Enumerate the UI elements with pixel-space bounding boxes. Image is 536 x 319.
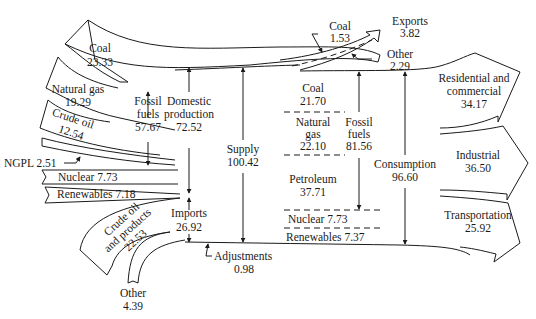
natural-gas-source-value: 19.29 [65, 96, 91, 108]
ngpl-label: NGPL 2.51 [4, 157, 57, 169]
consumption-label: Consumption [374, 158, 436, 171]
adjustments-label: Adjustments [214, 250, 273, 263]
industrial-value: 36.50 [465, 162, 491, 174]
domestic-production-label-2: production [164, 108, 214, 121]
adjustments-pointer [206, 244, 212, 256]
other-import-label: Other [120, 287, 146, 299]
imports-value: 26.92 [176, 221, 202, 233]
fossil-fuels-consumption-label-2: fuels [348, 128, 371, 140]
exports-other-label: Other [387, 48, 413, 60]
exports-coal-value: 1.53 [330, 32, 350, 44]
coal-source-label: Coal [89, 42, 111, 54]
consumption-renewables-label: Renewables 7.37 [286, 231, 365, 243]
consumption-natural-gas-label: Natural [296, 116, 330, 128]
coal-source-value: 23.33 [87, 56, 113, 68]
consumption-nuclear-label: Nuclear 7.73 [288, 213, 348, 225]
ngpl-source-edge [42, 138, 175, 160]
fossil-fuels-consumption-value: 81.56 [346, 140, 372, 152]
nuclear-source-label: Nuclear 7.73 [58, 171, 118, 183]
fossil-fuels-production-value: 57.67 [135, 121, 161, 133]
natural-gas-source-label: Natural gas [52, 83, 105, 96]
renewables-source-label: Renewables 7.18 [57, 188, 136, 200]
domestic-production-value: 72.52 [176, 121, 202, 133]
domestic-production-label: Domestic [167, 95, 211, 107]
consumption-coal-label: Coal [302, 82, 324, 94]
industrial-label: Industrial [456, 149, 500, 161]
consumption-petroleum-label: Petroleum [289, 173, 336, 185]
residential-commercial-label: Residential and [438, 72, 509, 84]
other-import-value: 4.39 [123, 300, 143, 312]
consumption-coal-value: 21.70 [300, 95, 326, 107]
consumption-value: 96.60 [392, 171, 418, 183]
fossil-fuels-consumption-label: Fossil [345, 116, 373, 128]
exports-other-pointer [352, 54, 372, 59]
exports-value: 3.82 [400, 27, 420, 39]
consumption-petroleum-value: 37.71 [300, 186, 326, 198]
supply-value: 100.42 [227, 156, 259, 168]
imports-label: Imports [171, 207, 207, 220]
residential-commercial-value: 34.17 [461, 98, 487, 110]
energy-flow-diagram: Coal 23.33 Natural gas 19.29 Crude oil 1… [0, 0, 536, 319]
exports-coal-pointer [312, 34, 322, 52]
fossil-fuels-production-label: Fossil [134, 95, 162, 107]
fossil-fuels-production-label-2: fuels [137, 108, 160, 120]
adjustments-value: 0.98 [234, 263, 254, 275]
residential-commercial-label-2: commercial [447, 85, 501, 97]
exports-coal-label: Coal [329, 20, 351, 32]
supply-label: Supply [227, 143, 260, 156]
ngpl-pointer [64, 157, 80, 163]
transportation-value: 25.92 [465, 222, 491, 234]
transportation-label: Transportation [444, 209, 512, 222]
consumption-natural-gas-value: 22.10 [300, 140, 326, 152]
